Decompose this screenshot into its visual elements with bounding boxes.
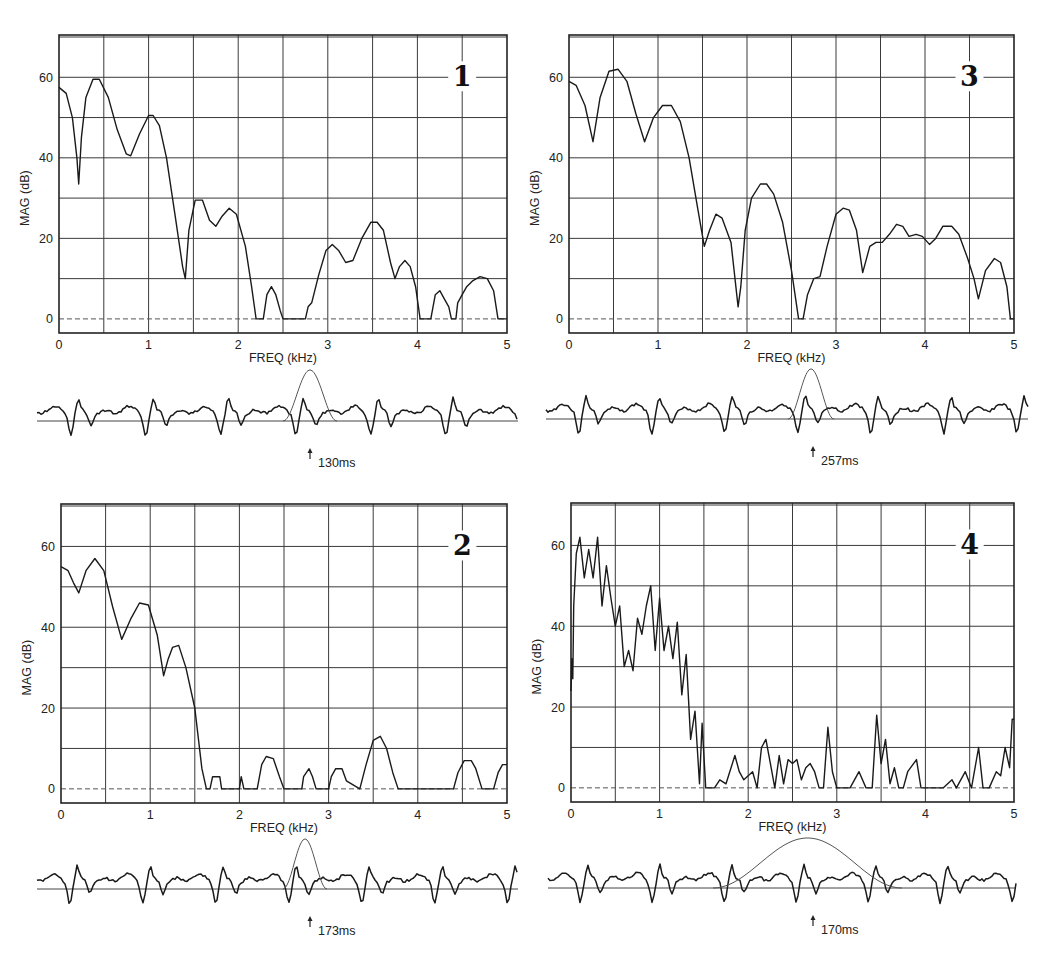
x-tick-label: 1 — [656, 807, 663, 821]
spectrum-figure: 0123450204060FREQ (kHz)MAG (dB)1130ms012… — [0, 0, 1053, 970]
x-tick-label: 2 — [745, 807, 752, 821]
x-tick-label: 5 — [504, 338, 511, 352]
y-tick-label: 40 — [551, 620, 565, 634]
x-tick-label: 1 — [145, 338, 152, 352]
panel-number: 3 — [960, 61, 979, 92]
panel-3: 0123450204060FREQ (kHz)MAG (dB)3257ms — [528, 35, 1028, 468]
y-tick-label: 60 — [551, 539, 565, 553]
y-axis-label: MAG (dB) — [530, 639, 544, 695]
x-tick-label: 3 — [833, 807, 840, 821]
y-tick-label: 40 — [549, 151, 563, 165]
panel-number: 4 — [960, 529, 979, 560]
y-tick-label: 20 — [39, 232, 53, 246]
y-tick-label: 20 — [549, 232, 563, 246]
y-axis-label: MAG (dB) — [528, 170, 542, 226]
x-tick-label: 0 — [56, 338, 63, 352]
arrow-head-icon — [811, 446, 816, 451]
x-tick-label: 3 — [324, 338, 331, 352]
y-tick-label: 40 — [41, 621, 55, 635]
x-axis-label: FREQ (kHz) — [250, 821, 318, 835]
x-tick-label: 4 — [414, 338, 421, 352]
x-tick-label: 3 — [833, 338, 840, 352]
y-axis-label: MAG (dB) — [20, 640, 34, 696]
waveform-signal — [37, 397, 517, 435]
y-tick-label: 20 — [41, 702, 55, 716]
waveform-signal — [546, 396, 1028, 434]
y-tick-label: 60 — [39, 71, 53, 85]
waveform-signal — [548, 864, 1016, 904]
x-tick-label: 1 — [655, 338, 662, 352]
x-axis-label: FREQ (kHz) — [758, 820, 826, 834]
arrow-head-icon — [308, 448, 313, 453]
x-tick-label: 5 — [504, 808, 511, 822]
arrow-head-icon — [811, 915, 816, 920]
analysis-window — [713, 838, 902, 888]
y-tick-label: 0 — [46, 312, 53, 326]
x-tick-label: 0 — [568, 807, 575, 821]
x-tick-label: 4 — [414, 808, 421, 822]
analysis-window — [283, 839, 327, 889]
x-tick-label: 0 — [58, 808, 65, 822]
x-tick-label: 2 — [235, 338, 242, 352]
analysis-window — [788, 369, 834, 419]
panel-2: 0123450204060FREQ (kHz)MAG (dB)2173ms — [20, 504, 518, 938]
x-tick-label: 4 — [922, 338, 929, 352]
panel-number: 2 — [453, 530, 472, 561]
y-tick-label: 40 — [39, 151, 53, 165]
time-marker-label: 257ms — [821, 454, 859, 468]
y-tick-label: 60 — [41, 540, 55, 554]
time-marker-label: 170ms — [821, 923, 859, 937]
panel-1: 0123450204060FREQ (kHz)MAG (dB)1130ms — [18, 35, 518, 470]
y-tick-label: 60 — [549, 71, 563, 85]
panel-number: 1 — [453, 61, 472, 92]
y-tick-label: 0 — [556, 312, 563, 326]
x-tick-label: 1 — [147, 808, 154, 822]
waveform-signal — [37, 865, 517, 903]
x-tick-label: 3 — [325, 808, 332, 822]
y-axis-label: MAG (dB) — [18, 170, 32, 226]
arrow-head-icon — [308, 916, 313, 921]
x-axis-label: FREQ (kHz) — [249, 351, 317, 365]
time-marker-label: 173ms — [318, 924, 356, 938]
y-tick-label: 0 — [48, 782, 55, 796]
x-tick-label: 0 — [566, 338, 573, 352]
x-tick-label: 2 — [744, 338, 751, 352]
x-tick-label: 5 — [1011, 807, 1018, 821]
x-tick-label: 4 — [922, 807, 929, 821]
x-tick-label: 2 — [236, 808, 243, 822]
y-tick-label: 0 — [558, 781, 565, 795]
x-tick-label: 5 — [1011, 338, 1018, 352]
y-tick-label: 20 — [551, 701, 565, 715]
time-marker-label: 130ms — [318, 456, 356, 470]
x-axis-label: FREQ (kHz) — [757, 351, 825, 365]
panel-4: 0123450204060FREQ (kHz)MAG (dB)4170ms — [530, 503, 1018, 937]
